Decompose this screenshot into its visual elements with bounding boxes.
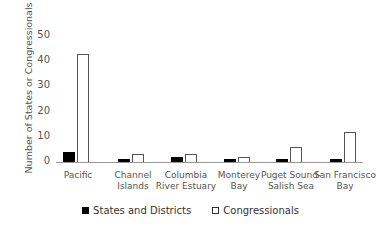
bar-congressionals xyxy=(185,154,197,162)
bar-congressionals xyxy=(132,154,144,162)
bar-states-and-districts xyxy=(171,157,183,162)
bar-states-and-districts xyxy=(330,159,342,162)
y-tick: 10 xyxy=(28,131,50,141)
legend-swatch-filled xyxy=(82,207,89,214)
bar-states-and-districts xyxy=(276,159,288,162)
bar-congressionals xyxy=(290,147,302,162)
bar-congressionals xyxy=(77,54,89,162)
y-tick: 50 xyxy=(28,30,50,40)
bar-congressionals xyxy=(344,132,356,162)
legend: States and Districts Congressionals xyxy=(0,205,381,216)
bar-states-and-districts xyxy=(63,152,75,162)
bar-congressionals xyxy=(238,157,250,162)
y-tick: 0 xyxy=(28,156,50,166)
legend-swatch-outline xyxy=(212,207,219,214)
bar-states-and-districts xyxy=(118,159,130,162)
bar-states-and-districts xyxy=(224,159,236,162)
x-axis-line xyxy=(56,162,363,163)
legend-item-congressionals: Congressionals xyxy=(212,205,299,216)
y-tick: 40 xyxy=(28,55,50,65)
y-tick: 20 xyxy=(28,106,50,116)
legend-item-states: States and Districts xyxy=(82,205,191,216)
x-category-label: San FranciscoBay xyxy=(310,170,380,192)
y-tick: 30 xyxy=(28,80,50,90)
